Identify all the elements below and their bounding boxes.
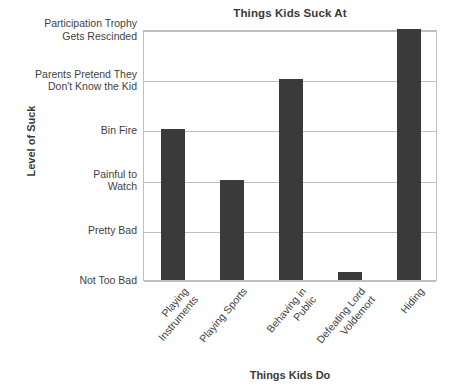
bar-chart: Things Kids Suck At Level of Suck Not To… bbox=[0, 0, 461, 388]
plot-area bbox=[143, 30, 437, 281]
bar bbox=[397, 29, 421, 280]
bar bbox=[220, 180, 244, 280]
bar bbox=[161, 129, 185, 280]
y-tick-label: Parents Pretend They Don't Know the Kid bbox=[0, 68, 137, 92]
chart-title: Things Kids Suck At bbox=[143, 7, 437, 19]
y-tick-label: Participation Trophy Gets Rescinded bbox=[0, 17, 137, 41]
x-axis-title: Things Kids Do bbox=[143, 369, 437, 381]
y-tick-label: Painful to Watch bbox=[0, 168, 137, 192]
y-tick-label: Not Too Bad bbox=[0, 274, 137, 286]
x-axis-tick-labels: Playing InstrumentsPlaying SportsBehavin… bbox=[143, 281, 437, 371]
y-tick-label: Bin Fire bbox=[0, 124, 137, 136]
y-tick-label: Pretty Bad bbox=[0, 224, 137, 236]
y-axis-tick-labels: Not Too BadPretty BadPainful to WatchBin… bbox=[0, 0, 139, 388]
bar bbox=[279, 79, 303, 280]
gridline bbox=[144, 31, 436, 32]
bar bbox=[338, 272, 362, 280]
